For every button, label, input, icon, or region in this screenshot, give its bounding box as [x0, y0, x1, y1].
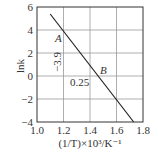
x-axis-ticks: 1.0 1.2 1.4 1.6 1.8 [30, 124, 150, 136]
point-a-label: A [54, 32, 62, 44]
delta-y-label: −3.9 [51, 52, 63, 72]
svg-text:1.8: 1.8 [136, 124, 150, 136]
point-b-label: B [100, 64, 107, 76]
svg-text:−2: −2 [21, 93, 33, 105]
svg-text:1.0: 1.0 [30, 124, 44, 136]
delta-x-label: 0.25 [70, 76, 90, 88]
svg-text:2: 2 [28, 47, 34, 59]
svg-text:6: 6 [28, 1, 34, 13]
svg-text:4: 4 [28, 24, 34, 36]
chart: 6 4 2 0 −2 −4 1.0 1.2 1.4 1.6 1.8 lnk (1… [0, 0, 158, 154]
svg-text:1.6: 1.6 [110, 124, 124, 136]
svg-text:1.4: 1.4 [83, 124, 97, 136]
svg-text:0: 0 [28, 70, 34, 82]
svg-text:1.2: 1.2 [57, 124, 71, 136]
x-axis-label: (1/T)×10³/K⁻¹ [58, 137, 121, 150]
y-axis-label: lnk [14, 58, 26, 73]
